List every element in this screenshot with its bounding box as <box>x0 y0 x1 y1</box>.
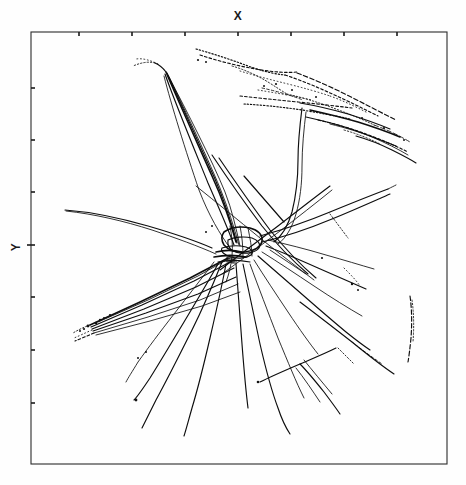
track-bundle-upper-left <box>133 59 240 248</box>
track-bundle-dotted-upper-right <box>196 49 396 125</box>
track-bundle-lower-fan <box>126 240 374 436</box>
plot-frame <box>31 32 447 464</box>
track-event-display-figure: X Y <box>0 0 466 485</box>
track-lower-right-sweep <box>300 302 394 374</box>
track-bundle-right-arm <box>240 90 416 163</box>
track-collection <box>65 49 416 436</box>
track-isolated-dashed-right <box>408 296 414 362</box>
x-axis-ticks <box>79 32 397 36</box>
track-lower-right-v <box>260 348 340 414</box>
x-axis-label: X <box>224 9 252 23</box>
y-axis-label: Y <box>9 235 23 259</box>
track-left-long-curve <box>65 210 216 254</box>
plot-canvas <box>0 0 466 485</box>
